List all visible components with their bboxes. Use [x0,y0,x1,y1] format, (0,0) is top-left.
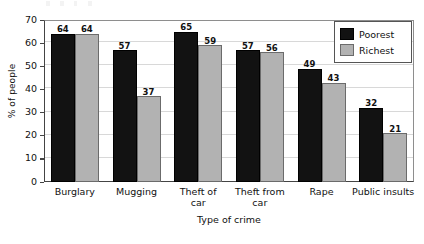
bar-value-label: 56 [266,44,278,53]
bar-value-label: 37 [143,88,155,97]
bar-chart: % of people 010203040506070 646457376559… [0,0,424,244]
legend-item-poorest: Poorest [340,26,407,42]
bar-value-label: 32 [365,99,377,108]
bar-value-label: 64 [57,25,69,34]
y-axis-tick-label: 10 [25,152,37,163]
bar-group: 5756 [236,20,284,182]
black-square-swatch-icon [340,28,354,40]
bar-richest: 43 [322,83,346,183]
x-axis-category-label-line: Public insults [346,186,420,197]
x-axis-category-label: Public insults [346,186,420,197]
legend-label: Poorest [359,29,394,40]
bar-value-label: 64 [81,25,93,34]
bar-value-label: 59 [204,37,216,46]
y-axis-tick-label: 20 [25,129,37,140]
y-axis-tick-label: 40 [25,83,37,94]
chart-legend: Poorest Richest [334,21,412,63]
bar-value-label: 57 [119,42,131,51]
y-axis-tick-label: 50 [25,60,37,71]
bar-richest: 59 [198,45,222,182]
bar-value-label: 57 [242,42,254,51]
scan-artifact [40,1,120,6]
bar-value-label: 43 [328,74,340,83]
bar-poorest: 57 [113,50,137,182]
bar-value-label: 21 [389,125,401,134]
gray-square-swatch-icon [340,44,354,56]
bar-poorest: 32 [359,108,383,182]
bar-richest: 64 [75,34,99,182]
bar-value-label: 49 [304,60,316,69]
x-axis-category-labels: BurglaryMuggingTheft ofcarTheft fromcarR… [44,186,414,216]
y-axis-tick-label: 70 [25,14,37,25]
x-axis-category-label-line: car [223,197,297,208]
x-axis-title: Type of crime [44,214,414,225]
bar-poorest: 57 [236,50,260,182]
bar-poorest: 65 [174,32,198,182]
bar-poorest: 49 [298,69,322,182]
bar-richest: 21 [383,133,407,182]
y-axis-title: % of people [7,41,17,141]
y-axis-tick-label: 0 [31,176,37,187]
bar-richest: 56 [260,52,284,182]
y-axis-tick-label: 30 [25,106,37,117]
y-axis-tick-label: 60 [25,37,37,48]
legend-item-richest: Richest [340,42,407,58]
legend-label: Richest [359,45,394,56]
bar-poorest: 64 [51,34,75,182]
bar-richest: 37 [137,96,161,182]
bar-group: 6559 [174,20,222,182]
bar-group: 6464 [51,20,99,182]
bar-value-label: 65 [180,23,192,32]
bar-group: 5737 [113,20,161,182]
